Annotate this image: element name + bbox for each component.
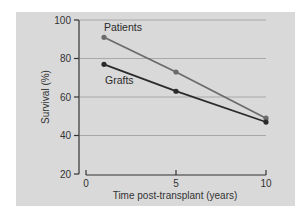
y-tick-label: 100 [54,15,71,26]
series-line-grafts [104,64,266,122]
line-chart: 10080604020 0510 Time post-transplant (y… [0,0,305,217]
series-label-patients: Patients [104,21,142,33]
y-axis-title: Survival (%) [40,70,51,124]
series-label-grafts: Grafts [105,74,134,86]
x-axis-title: Time post-transplant (years) [113,190,238,201]
y-axis: 10080604020 [54,15,79,180]
x-tick-label: 10 [260,178,272,189]
x-tick-label: 5 [173,178,179,189]
x-tick-label: 0 [83,178,89,189]
y-tick-label: 20 [60,169,72,180]
data-point-patients [173,69,178,74]
y-tick-label: 60 [60,92,72,103]
data-point-grafts [101,62,106,67]
y-tick-label: 80 [60,53,72,64]
data-point-patients [101,35,106,40]
data-point-grafts [173,89,178,94]
y-tick-label: 40 [60,130,72,141]
x-axis: 0510 [83,170,272,189]
data-point-grafts [263,119,268,124]
